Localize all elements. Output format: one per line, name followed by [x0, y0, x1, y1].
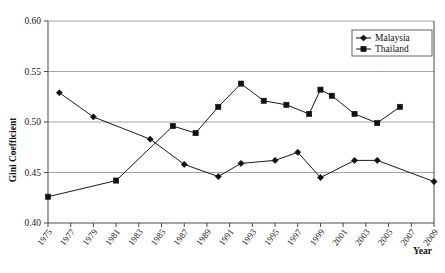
x-axis-title: Year	[413, 246, 433, 256]
x-tick-label: 1981	[103, 227, 122, 247]
data-point-marker	[329, 93, 334, 98]
series-malaysia	[56, 90, 437, 185]
x-tick-label: 2003	[353, 227, 372, 248]
series-group	[45, 81, 437, 199]
legend-label: Thailand	[375, 44, 409, 54]
x-tick-label: 1997	[285, 227, 304, 248]
data-point-marker	[215, 173, 221, 179]
data-point-marker	[284, 102, 289, 107]
legend-label: Malaysia	[375, 33, 411, 43]
x-tick-label: 1989	[194, 227, 213, 248]
data-point-marker	[238, 81, 243, 86]
data-point-marker	[114, 178, 119, 183]
x-tick-label: 1995	[262, 227, 281, 248]
data-point-marker	[238, 160, 244, 166]
x-tick-label: 1983	[126, 227, 145, 248]
data-point-marker	[307, 111, 312, 116]
data-point-marker	[318, 87, 323, 92]
data-point-marker	[272, 157, 278, 163]
x-tick-label: 1991	[217, 227, 236, 247]
data-point-marker	[261, 98, 266, 103]
data-point-marker	[170, 123, 175, 128]
y-tick-label: 0.45	[24, 168, 41, 178]
legend: MalaysiaThailand	[352, 30, 432, 56]
x-tick-label: 2007	[398, 227, 417, 248]
data-point-marker	[431, 178, 437, 184]
x-tick-label: 1993	[239, 227, 258, 248]
x-tick-label: 1977	[58, 227, 77, 248]
y-tick-label: 0.55	[24, 67, 41, 77]
series-line	[48, 84, 400, 197]
legend-marker-square	[361, 46, 366, 51]
data-point-marker	[216, 104, 221, 109]
data-point-marker	[375, 120, 380, 125]
data-point-marker	[90, 114, 96, 120]
x-axis-ticks: 1975197719791981198319851987198919911993…	[35, 223, 440, 247]
data-point-marker	[193, 131, 198, 136]
data-point-marker	[351, 157, 357, 163]
y-tick-label: 0.40	[24, 218, 41, 228]
x-tick-label: 1979	[81, 227, 100, 248]
data-point-marker	[374, 157, 380, 163]
x-tick-label: 1987	[171, 227, 190, 248]
data-point-marker	[352, 111, 357, 116]
x-tick-label: 2005	[376, 227, 395, 248]
y-axis-title: Gini Coefficient	[8, 117, 18, 182]
x-tick-label: 1975	[35, 227, 54, 248]
x-tick-label: 2009	[421, 227, 440, 248]
data-point-marker	[56, 90, 62, 96]
series-line	[59, 93, 434, 182]
gini-coefficient-line-chart: 0.600.550.500.450.40 1975197719791981198…	[0, 0, 445, 273]
x-tick-label: 2001	[330, 227, 349, 247]
chart-canvas: 0.600.550.500.450.40 1975197719791981198…	[0, 0, 445, 273]
y-axis-ticks: 0.600.550.500.450.40	[24, 16, 48, 228]
x-tick-label: 1999	[308, 227, 327, 248]
y-tick-label: 0.50	[24, 117, 41, 127]
data-point-marker	[45, 194, 50, 199]
y-tick-label: 0.60	[24, 16, 41, 26]
x-tick-label: 1985	[149, 227, 168, 248]
data-point-marker	[397, 104, 402, 109]
series-thailand	[45, 81, 402, 199]
